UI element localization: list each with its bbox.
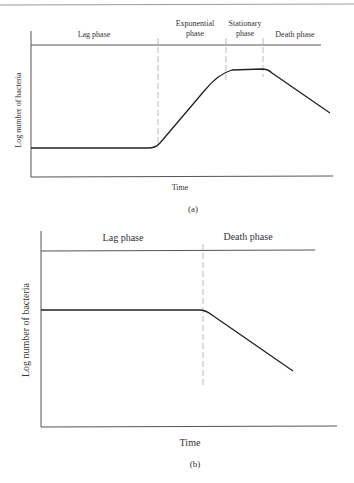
chart-b-death-label: Death phase [223,231,273,242]
chart-b-x-label: Time [180,437,201,448]
chart-a-lag-label: Lag phase [78,30,111,39]
chart-a-caption: (a) [188,204,198,214]
chart-a-stat-label-2: phase [236,29,255,38]
chart-a-x-axis [31,176,333,177]
chart-a-growth-curve [31,69,330,148]
chart-a-death-label: Death phase [275,30,315,39]
chart-a-stat-label-1: Stationary [229,19,262,28]
chart-a-x-label: Time [172,183,189,192]
chart-b-phase-rule [41,250,315,251]
chart-a-y-label: Log number of bacteria [14,72,23,148]
chart-a-exp-label-1: Exponential [176,19,215,28]
chart-b-x-axis [41,426,337,427]
chart-b-y-label: Log number of bacteria [20,282,31,377]
figure: Lag phase Exponential phase Stationary p… [0,0,354,483]
chart-b-lag-label: Lag phase [103,232,144,243]
chart-a: Lag phase Exponential phase Stationary p… [14,19,333,214]
page-top-rule [0,4,354,5]
chart-b: Lag phase Death phase Log number of bact… [20,231,337,469]
chart-b-death-curve [41,310,293,371]
chart-b-caption: (b) [190,459,201,469]
chart-a-exp-label-2: phase [186,29,205,38]
